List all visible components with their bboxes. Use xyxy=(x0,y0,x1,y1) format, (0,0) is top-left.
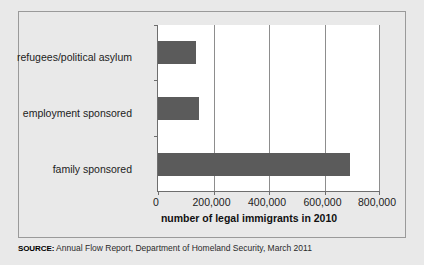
bar-family-sponsored xyxy=(158,153,350,176)
category-label-employment-sponsored: employment sponsored xyxy=(23,107,132,119)
gridline-800000 xyxy=(379,25,380,191)
xtick-label-600000: 600,000 xyxy=(304,196,342,208)
bar-refugees-political-asylum xyxy=(158,41,196,64)
xtick-label-200000: 200,000 xyxy=(193,196,231,208)
source-label: SOURCE: xyxy=(18,244,54,253)
x-axis-title: number of legal immigrants in 2010 xyxy=(138,212,360,224)
xtick-mark-800000 xyxy=(379,191,380,195)
xtick-mark-0 xyxy=(158,191,159,195)
ytick-mark-2 xyxy=(154,136,158,137)
category-label-family-sponsored: family sponsored xyxy=(53,163,132,175)
source-line: SOURCE: Annual Flow Report, Department o… xyxy=(18,243,312,253)
xtick-mark-400000 xyxy=(269,191,270,195)
source-text: Annual Flow Report, Department of Homela… xyxy=(56,243,312,253)
figure-container: refugees/political asylum employment spo… xyxy=(0,0,424,265)
xtick-mark-200000 xyxy=(214,191,215,195)
xtick-label-800000: 800,000 xyxy=(358,196,396,208)
xtick-mark-600000 xyxy=(325,191,326,195)
xtick-label-400000: 400,000 xyxy=(248,196,286,208)
bar-employment-sponsored xyxy=(158,97,199,120)
xtick-label-0: 0 xyxy=(153,196,159,208)
ytick-mark-1 xyxy=(154,80,158,81)
ytick-mark-top xyxy=(154,25,158,26)
category-label-refugees-political-asylum: refugees/political asylum xyxy=(17,51,132,63)
plot-area xyxy=(157,25,380,192)
